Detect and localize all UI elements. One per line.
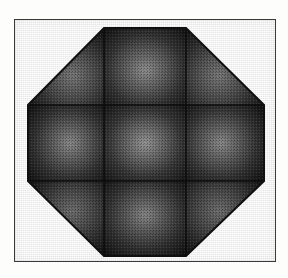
figure-frame: Shaded octagon composed of a three-by-th…	[14, 19, 276, 262]
halftone-texture	[15, 20, 277, 263]
figure-canvas: Shaded octagon composed of a three-by-th…	[0, 0, 288, 278]
octagon-figure: Shaded octagon composed of a three-by-th…	[15, 20, 277, 263]
figure-plate: Shaded octagon composed of a three-by-th…	[15, 20, 275, 261]
